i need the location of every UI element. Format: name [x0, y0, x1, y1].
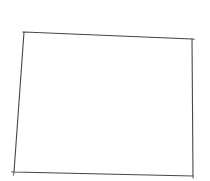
- state-outline-shape: [14, 32, 193, 176]
- corner-overshoot-strokes: [11, 32, 194, 179]
- state-outline-figure: [0, 0, 210, 181]
- canvas: [0, 0, 210, 181]
